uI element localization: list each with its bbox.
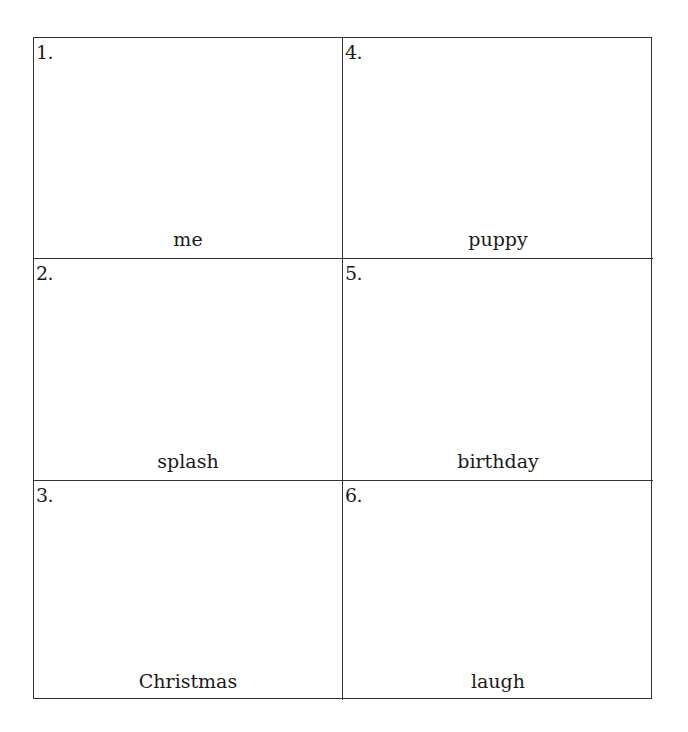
cell-word: puppy — [343, 230, 653, 249]
cell-word: Christmas — [34, 672, 342, 691]
word-picture-grid: 1. me 4. puppy 2. splash 5. birthday 3. … — [33, 37, 652, 699]
cell-word: splash — [34, 452, 342, 471]
cell-number: 3. — [36, 486, 53, 505]
grid-cell-3: 3. Christmas — [34, 481, 343, 700]
grid-cell-6: 6. laugh — [343, 481, 653, 700]
grid-cell-4: 4. puppy — [343, 38, 653, 259]
grid-cell-2: 2. splash — [34, 259, 343, 481]
cell-number: 2. — [36, 264, 53, 283]
cell-number: 1. — [36, 43, 53, 62]
cell-number: 5. — [345, 264, 362, 283]
grid-cell-1: 1. me — [34, 38, 343, 259]
cell-number: 4. — [345, 43, 362, 62]
cell-word: laugh — [343, 672, 653, 691]
grid-cell-5: 5. birthday — [343, 259, 653, 481]
cell-word: birthday — [343, 452, 653, 471]
cell-word: me — [34, 230, 342, 249]
cell-number: 6. — [345, 486, 362, 505]
